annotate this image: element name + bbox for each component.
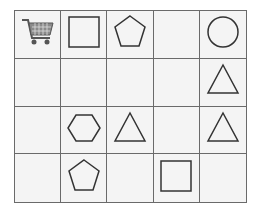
square-icon bbox=[66, 14, 102, 54]
pentagon-icon bbox=[112, 14, 148, 54]
grid-cell-r0-c0 bbox=[15, 11, 61, 59]
grid-cell-r3-c0 bbox=[15, 154, 61, 202]
grid-cell-r1-c1 bbox=[61, 59, 107, 107]
grid-cell-r1-c2 bbox=[107, 59, 153, 107]
triangle-icon bbox=[112, 110, 148, 150]
grid-cell-r1-c0 bbox=[15, 59, 61, 107]
grid-cell-r3-c2 bbox=[107, 154, 153, 202]
grid-cell-r2-c0 bbox=[15, 107, 61, 155]
grid-cell-r2-c1 bbox=[61, 107, 107, 155]
grid-cell-r3-c3 bbox=[154, 154, 200, 202]
shape-grid bbox=[14, 10, 247, 203]
grid-cell-r2-c4 bbox=[200, 107, 246, 155]
grid-cell-r0-c4 bbox=[200, 11, 246, 59]
grid-cell-r2-c3 bbox=[154, 107, 200, 155]
grid-cell-r0-c3 bbox=[154, 11, 200, 59]
grid-cell-r1-c4 bbox=[200, 59, 246, 107]
grid-cell-r0-c1 bbox=[61, 11, 107, 59]
grid-cell-r2-c2 bbox=[107, 107, 153, 155]
cart-icon bbox=[20, 14, 56, 54]
hexagon-icon bbox=[66, 110, 102, 150]
circle-icon bbox=[205, 14, 241, 54]
grid-cell-r1-c3 bbox=[154, 59, 200, 107]
triangle-icon bbox=[205, 110, 241, 150]
grid-cell-r3-c4 bbox=[200, 154, 246, 202]
grid-cell-r3-c1 bbox=[61, 154, 107, 202]
pentagon-icon bbox=[66, 158, 102, 198]
triangle-icon bbox=[205, 62, 241, 102]
grid-cell-r0-c2 bbox=[107, 11, 153, 59]
square-icon bbox=[158, 158, 194, 198]
